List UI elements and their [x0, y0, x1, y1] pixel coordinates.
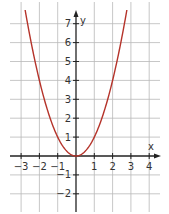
y-axis-arrow-icon	[74, 10, 79, 17]
y-tick-label: 5	[65, 56, 71, 67]
y-tick-label: 4	[65, 75, 71, 86]
x-tick-label: 2	[109, 161, 115, 172]
y-axis-label: y	[80, 15, 86, 26]
x-tick-label: 3	[128, 161, 134, 172]
grid	[10, 2, 160, 212]
y-tick-label: 7	[65, 18, 71, 29]
x-tick-label: 4	[146, 161, 152, 172]
x-tick-label: −2	[32, 161, 47, 172]
y-tick-label: −1	[56, 169, 71, 180]
y-tick-label: 3	[65, 94, 71, 105]
x-tick-label: 1	[91, 161, 97, 172]
parabola-chart: −3−2−11234−2−11234567xy	[0, 0, 169, 214]
x-tick-label: −3	[14, 161, 29, 172]
x-axis-arrow-icon	[154, 154, 161, 159]
y-tick-label: 2	[65, 113, 71, 124]
axes	[10, 10, 161, 212]
y-tick-label: 6	[65, 37, 71, 48]
y-tick-label: −2	[56, 188, 71, 199]
x-axis-label: x	[148, 141, 154, 152]
y-tick-label: 1	[65, 132, 71, 143]
